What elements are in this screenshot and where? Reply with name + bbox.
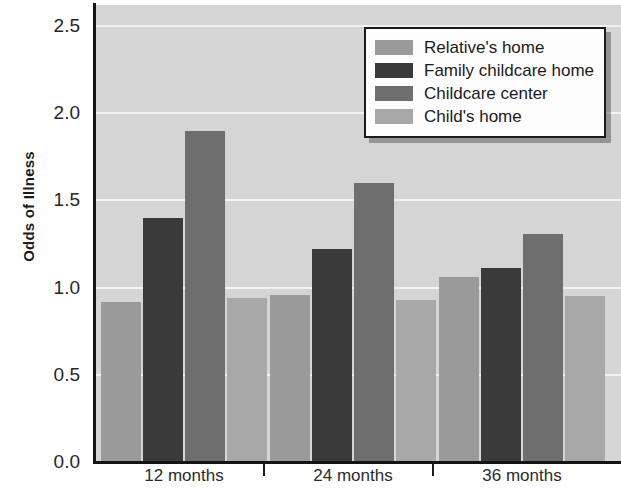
legend-label: Relative's home [424, 39, 544, 56]
legend-row: Child's home [375, 105, 594, 128]
bar [185, 131, 225, 462]
bar [312, 249, 352, 462]
y-axis-ticks: 0.00.51.01.52.02.5 [24, 0, 80, 491]
bar [101, 302, 141, 462]
bar [227, 298, 267, 462]
bar [565, 296, 605, 462]
legend-swatch-icon [375, 109, 413, 124]
legend-swatch-icon [375, 63, 413, 78]
legend-label: Childcare center [424, 85, 548, 102]
y-axis-line [93, 3, 96, 464]
bar [396, 300, 436, 462]
y-tick-label: 2.0 [24, 103, 80, 122]
bar-chart: Odds of Illness 0.00.51.01.52.02.5 12 mo… [0, 0, 621, 491]
x-tick-mark [432, 464, 434, 476]
y-tick-label: 1.0 [24, 278, 80, 297]
x-group-label: 12 months [101, 466, 267, 486]
legend-row: Family childcare home [375, 59, 594, 82]
bar [439, 277, 479, 462]
legend: Relative's homeFamily childcare homeChil… [364, 27, 606, 138]
legend-swatch-icon [375, 40, 413, 55]
y-tick-label: 0.5 [24, 365, 80, 384]
bar [270, 295, 310, 462]
legend-row: Relative's home [375, 36, 594, 59]
y-tick-label: 0.0 [24, 452, 80, 471]
x-group-label: 36 months [439, 466, 605, 486]
legend-label: Child's home [424, 108, 522, 125]
x-group-label: 24 months [270, 466, 436, 486]
y-tick-label: 1.5 [24, 190, 80, 209]
bar [354, 183, 394, 462]
x-axis-line [93, 461, 621, 464]
y-tick-label: 2.5 [24, 16, 80, 35]
legend-label: Family childcare home [424, 62, 594, 79]
bar [523, 234, 563, 462]
legend-row: Childcare center [375, 82, 594, 105]
bar [143, 218, 183, 462]
bar [481, 268, 521, 462]
legend-swatch-icon [375, 86, 413, 101]
x-tick-mark [263, 464, 265, 476]
